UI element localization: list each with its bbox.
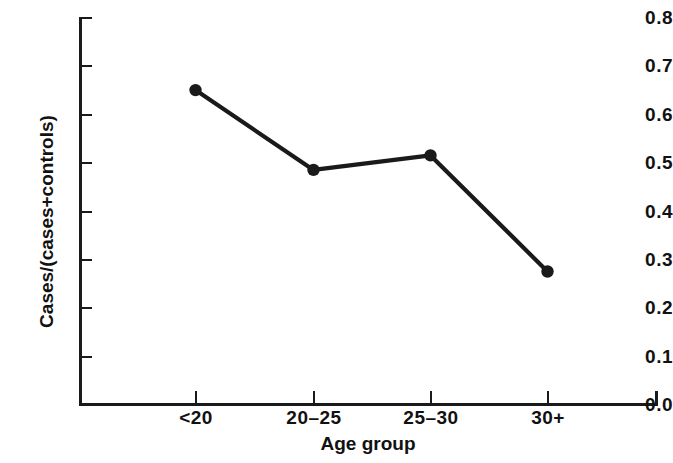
data-point-marker — [189, 84, 201, 96]
data-point-marker — [424, 149, 436, 161]
data-point-marker — [541, 265, 553, 277]
series-markers — [189, 84, 553, 278]
data-point-marker — [307, 164, 319, 176]
plot-area — [0, 0, 673, 463]
series-line — [196, 90, 548, 271]
chart-figure: 0.8 0.7 0.6 0.5 0.4 0.3 0.2 0.1 0.0 <20 … — [0, 0, 673, 463]
